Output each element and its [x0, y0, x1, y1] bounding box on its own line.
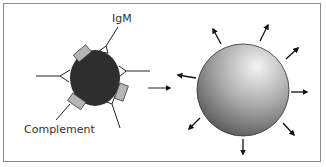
arrow-up-right-icon [260, 25, 268, 41]
igm-label: IgM [112, 13, 132, 24]
antibody-coated-cell [36, 27, 150, 128]
lysed-cell [178, 25, 307, 154]
arrow-right-up-icon [286, 48, 298, 59]
arrow-down-left-icon [189, 118, 200, 129]
diagram-canvas [0, 0, 326, 167]
arrow-up-left-icon [213, 29, 221, 44]
arrow-left-icon [178, 75, 196, 78]
swollen-sphere [197, 44, 289, 136]
complement-label: Complement [24, 124, 95, 135]
arrow-down-right-icon [283, 123, 294, 135]
